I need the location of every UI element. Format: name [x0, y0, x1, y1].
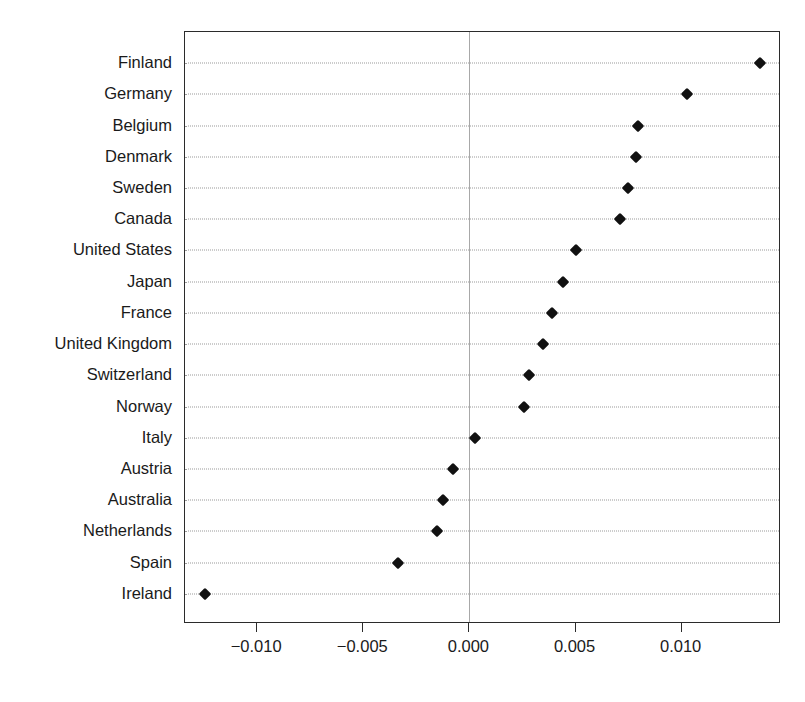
- gridline: [185, 125, 779, 126]
- zero-reference-line: [469, 32, 470, 622]
- category-label: Spain: [130, 553, 172, 570]
- gridline: [185, 219, 779, 220]
- data-point: [392, 556, 405, 569]
- category-label: Japan: [127, 272, 172, 289]
- data-point: [753, 57, 766, 70]
- data-point: [523, 369, 536, 382]
- category-label: Switzerland: [87, 366, 172, 383]
- x-axis-tick: [468, 623, 469, 632]
- category-label: Belgium: [112, 116, 172, 133]
- gridline: [185, 562, 779, 563]
- category-label: France: [121, 304, 172, 321]
- data-point: [569, 244, 582, 257]
- category-label: United Kingdom: [55, 335, 172, 352]
- x-axis-tick: [575, 623, 576, 632]
- gridline: [185, 375, 779, 376]
- x-axis-tick-label: −0.010: [231, 638, 282, 655]
- data-point: [631, 119, 644, 132]
- category-label: Ireland: [122, 585, 172, 602]
- category-label: Denmark: [105, 148, 172, 165]
- dot-plot-figure: FinlandGermanyBelgiumDenmarkSwedenCanada…: [0, 0, 805, 702]
- data-point: [437, 494, 450, 507]
- x-axis-tick-label: 0.000: [448, 638, 489, 655]
- gridline: [185, 156, 779, 157]
- category-label: Germany: [104, 85, 172, 102]
- gridline: [185, 500, 779, 501]
- category-axis-labels: FinlandGermanyBelgiumDenmarkSwedenCanada…: [0, 31, 176, 623]
- category-label: Finland: [118, 54, 172, 71]
- gridline: [185, 188, 779, 189]
- x-axis-tick: [362, 623, 363, 632]
- x-axis-tick-label: −0.005: [337, 638, 388, 655]
- x-axis-tick: [256, 623, 257, 632]
- gridline: [185, 593, 779, 594]
- category-label: Austria: [121, 460, 172, 477]
- data-point: [613, 213, 626, 226]
- gridline: [185, 281, 779, 282]
- plot-area: [184, 31, 780, 623]
- data-point: [621, 182, 634, 195]
- category-label: Italy: [142, 429, 172, 446]
- data-point: [537, 338, 550, 351]
- gridline: [185, 250, 779, 251]
- category-label: Australia: [108, 491, 172, 508]
- category-label: Canada: [114, 210, 172, 227]
- data-point: [680, 88, 693, 101]
- category-label: Norway: [116, 397, 172, 414]
- x-axis-tick: [681, 623, 682, 632]
- gridline: [185, 63, 779, 64]
- x-axis-tick-label: 0.005: [554, 638, 595, 655]
- gridline: [185, 437, 779, 438]
- gridline: [185, 531, 779, 532]
- category-label: Sweden: [112, 179, 172, 196]
- x-axis: −0.010−0.0050.0000.0050.010: [184, 623, 780, 683]
- gridline: [185, 344, 779, 345]
- plot-inner: [185, 32, 779, 622]
- gridline: [185, 406, 779, 407]
- data-point: [629, 150, 642, 163]
- gridline: [185, 469, 779, 470]
- category-label: Netherlands: [83, 522, 172, 539]
- gridline: [185, 312, 779, 313]
- category-label: United States: [73, 241, 172, 258]
- data-point: [545, 307, 558, 320]
- data-point: [447, 463, 460, 476]
- data-point: [431, 525, 444, 538]
- x-axis-tick-label: 0.010: [660, 638, 701, 655]
- data-point: [517, 400, 530, 413]
- data-point: [199, 588, 212, 601]
- data-point: [557, 275, 570, 288]
